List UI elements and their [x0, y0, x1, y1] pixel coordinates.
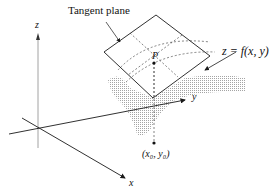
z-axis-label: z [35, 20, 39, 30]
x-axis-label: x [129, 178, 133, 188]
tangent-plane-diagram: Tangent plane z = f(x, y) P (x₀, y₀) x y… [0, 0, 277, 189]
tangent-plane-leader [106, 22, 120, 42]
surface-shading [108, 75, 245, 135]
x-axis [22, 118, 125, 178]
base-point-marker [152, 141, 155, 144]
tangent-plane-label: Tangent plane [68, 5, 130, 16]
point-P-label: P [152, 51, 158, 61]
diagram-canvas [0, 0, 277, 189]
y-axis-label: y [192, 92, 196, 102]
z-axis-arrowhead [36, 33, 40, 40]
base-point-label: (x₀, y₀) [142, 149, 170, 159]
point-P-marker [152, 61, 155, 64]
y-axis [9, 100, 185, 134]
surface-label: z = f(x, y) [222, 45, 269, 57]
